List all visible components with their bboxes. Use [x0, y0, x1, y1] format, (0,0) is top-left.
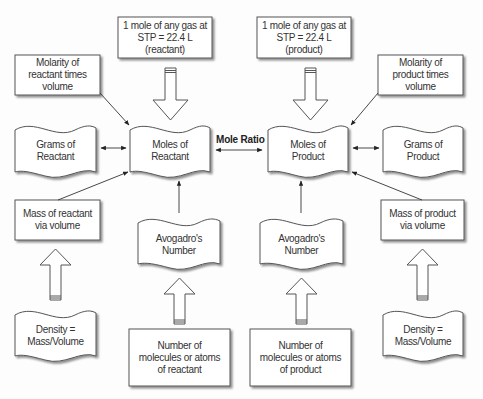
grams-product-label: Grams of Product [383, 128, 463, 174]
moles-product-label: Moles of Product [268, 128, 348, 174]
stp-product-label: 1 mole of any gas at STP = 22.4 L (produ… [257, 17, 351, 58]
avogadro-product-label: Avogadro's Number [260, 222, 343, 268]
block-arrow-stp-product [293, 68, 328, 120]
mass-product-label: Mass of product via volume [381, 200, 464, 240]
count-reactant-label: Number of molecules or atoms of reactant [129, 329, 230, 386]
stoichiometry-diagram: 1 mole of any gas at STP = 22.4 L (react… [0, 0, 483, 399]
block-arrow-count-reactant [164, 278, 195, 324]
molarity-product-label: Molarity of product times volume [378, 55, 463, 95]
density-product-label: Density = Mass/Volume [383, 313, 463, 359]
arrow-molarity-to-moles-reactant [100, 93, 129, 125]
arrow-mass-to-moles-reactant [58, 172, 128, 200]
arrow-molarity-to-moles-product [351, 93, 378, 125]
block-arrow-stp-reactant [153, 68, 188, 120]
avogadro-reactant-label: Avogadro's Number [138, 222, 220, 268]
block-arrow-count-product [286, 278, 317, 324]
block-arrow-density-product [407, 249, 438, 300]
mass-reactant-label: Mass of reactant via volume [15, 200, 100, 240]
stp-reactant-label: 1 mole of any gas at STP = 22.4 L (react… [118, 17, 212, 58]
grams-reactant-label: Grams of Reactant [15, 128, 96, 174]
count-product-label: Number of molecules or atoms of product [250, 329, 351, 386]
mole-ratio-label: Mole Ratio [216, 134, 265, 145]
block-arrow-density-reactant [40, 249, 71, 300]
arrow-mass-to-moles-product [352, 172, 422, 200]
moles-reactant-label: Moles of Reactant [130, 128, 210, 174]
molarity-reactant-label: Molarity of reactant times volume [15, 55, 100, 95]
density-reactant-label: Density = Mass/Volume [15, 313, 96, 359]
